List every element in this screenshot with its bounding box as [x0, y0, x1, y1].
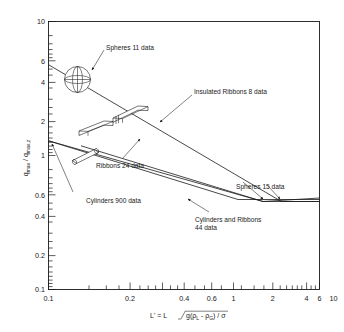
y-tick-labels: 10 6 4 2 1 0.6 0.4 0.2 0.1: [35, 17, 45, 294]
annotation-label: Insulated Ribbons 8 data: [194, 88, 267, 95]
y-tick-label: 10: [37, 17, 45, 26]
annotation-ribbons-24: Ribbons 24 data: [96, 139, 144, 169]
annotation-insulated-ribbons-8: Insulated Ribbons 8 data: [160, 88, 267, 122]
loglog-chart: 10 6 4 2 1 0.6 0.4 0.2 0.1: [0, 0, 344, 332]
annotation-spheres-11: Spheres 11 data: [92, 44, 154, 70]
x-tick-label: 4: [305, 294, 309, 303]
sphere-sketch: [65, 67, 91, 93]
y-tick-label: 6: [41, 57, 45, 66]
x-tick-label: 6: [318, 294, 322, 303]
insulated-ribbon-sketch: [113, 106, 148, 124]
chart-figure: 10 6 4 2 1 0.6 0.4 0.2 0.1: [0, 0, 344, 332]
x-tick-label: 0.6: [207, 294, 217, 303]
y-tick-label: 1: [41, 151, 45, 160]
y-axis-ticks: [49, 22, 56, 290]
annotation-label: Cylinders 900 data: [86, 197, 141, 205]
x-tick-label: 1: [232, 294, 236, 303]
series-insulated-ribbons-8: [49, 141, 320, 202]
y-tick-label: 0.2: [35, 251, 45, 260]
ribbon-sketch-left: [79, 121, 113, 136]
x-tick-label: 2: [271, 294, 275, 303]
svg-text:qmax / qmax,z: qmax / qmax,z: [22, 139, 31, 176]
x-tick-label: 0.1: [44, 294, 54, 303]
x-tick-label: 0.2: [125, 294, 135, 303]
y-axis-title: qmax / qmax,z: [22, 139, 31, 176]
annotation-label: Ribbons 24 data: [96, 162, 144, 169]
annotation-label: Spheres 15 data: [236, 183, 285, 191]
y-tick-label: 4: [41, 78, 45, 87]
x-tick-labels: 0.1 0.2 0.4 0.6 1 2 4 6 10: [44, 294, 338, 303]
x-axis-ticks: [49, 283, 320, 290]
x-tick-label: 10: [330, 294, 338, 303]
x-axis-title: L' = L g(ρL - ρG) / σ: [150, 311, 228, 321]
svg-text:L' = L: L' = L: [150, 312, 167, 319]
y-tick-label: 0.4: [35, 212, 45, 221]
x-tick-label: 0.4: [179, 294, 189, 303]
y-tick-label: 0.6: [35, 191, 45, 200]
annotation-label-line2: 44 data: [195, 224, 217, 231]
svg-text:g(ρL - ρG) / σ: g(ρL - ρG) / σ: [186, 312, 226, 321]
annotation-cylinders-ribbons-44: Cylinders and Ribbons 44 data: [188, 199, 262, 231]
y-tick-label: 2: [41, 117, 45, 126]
annotation-label: Spheres 11 data: [106, 44, 154, 52]
series-cylinders-900: [49, 141, 320, 200]
